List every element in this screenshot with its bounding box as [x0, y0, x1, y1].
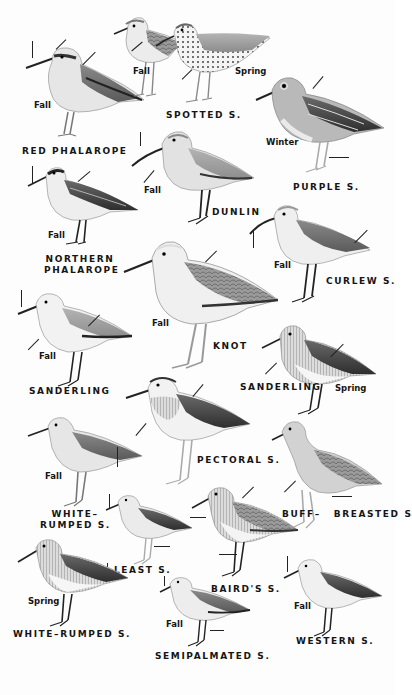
species-label-curlew-sandpiper: CURLEW S. — [326, 276, 396, 287]
field-mark-pointer — [117, 447, 118, 467]
bird-illustration-sanderling-spring — [260, 324, 380, 416]
bird-illustration-purple-sandpiper — [254, 74, 386, 174]
bird-illustration-pectoral-sandpiper — [124, 376, 254, 486]
species-label-knot: KNOT — [213, 341, 248, 352]
species-label-spotted-sandpiper: SPOTTED S. — [166, 110, 242, 121]
field-mark-pointer — [140, 132, 141, 146]
season-label: Fall — [45, 471, 62, 481]
field-mark-pointer — [154, 546, 170, 547]
bird-illustration-knot — [122, 238, 282, 373]
field-mark-pointer — [164, 576, 165, 586]
field-mark-pointer — [329, 157, 349, 158]
season-label: Fall — [144, 185, 161, 195]
field-mark-pointer — [219, 554, 237, 555]
bird-illustration-western-sandpiper — [282, 558, 386, 638]
season-label: Fall — [294, 601, 311, 611]
season-label: Fall — [166, 619, 183, 629]
species-label-line: NORTHERN — [44, 254, 116, 265]
species-label-line: BREASTED S — [334, 509, 412, 519]
species-label-northern-phalarope: NORTHERN PHALAROPE — [44, 254, 116, 276]
species-label-line: RUMPED S. — [40, 520, 110, 531]
species-label-line: PHALAROPE — [44, 265, 116, 276]
field-mark-pointer — [332, 496, 352, 497]
bird-illustration-dunlin — [130, 130, 260, 236]
season-label: Spring — [335, 383, 366, 393]
species-label-red-phalarope: RED PHALAROPE — [22, 146, 128, 157]
season-label: Winter — [266, 137, 298, 147]
field-mark-pointer — [210, 630, 224, 631]
field-mark-pointer — [109, 494, 110, 508]
species-label-sanderling: SANDERLING — [29, 386, 111, 397]
species-label-white-rumped-sandpiper: WHITE–RUMPED S. — [13, 629, 131, 640]
season-label: Spring — [28, 596, 59, 606]
species-label-white-rumped-sandpiper: WHITE– RUMPED S. — [40, 509, 110, 531]
species-label-line: WHITE– — [40, 509, 110, 520]
season-label: Fall — [48, 230, 65, 240]
bird-illustration-northern-phalarope — [26, 166, 141, 244]
season-label: Fall — [133, 66, 150, 76]
species-label-western-sandpiper: WESTERN S. — [296, 636, 374, 647]
bird-illustration-sanderling-fall — [16, 290, 136, 390]
season-label: Fall — [34, 100, 51, 110]
bird-illustration-white-rumped-sandpiper-spring — [16, 538, 132, 632]
species-label-pectoral-sandpiper: PECTORAL S. — [197, 455, 280, 466]
species-label-purple-sandpiper: PURPLE S. — [293, 182, 360, 193]
bird-illustration-semipalmated-sandpiper — [158, 576, 254, 648]
season-label: Fall — [152, 318, 169, 328]
field-mark-pointer — [190, 517, 206, 518]
field-mark-pointer — [32, 166, 33, 183]
field-mark-pointer — [32, 41, 33, 58]
season-label: Fall — [39, 351, 56, 361]
field-mark-pointer — [287, 556, 288, 572]
species-label-semipalmated-sandpiper: SEMIPALMATED S. — [155, 651, 270, 662]
field-mark-pointer — [21, 290, 22, 307]
